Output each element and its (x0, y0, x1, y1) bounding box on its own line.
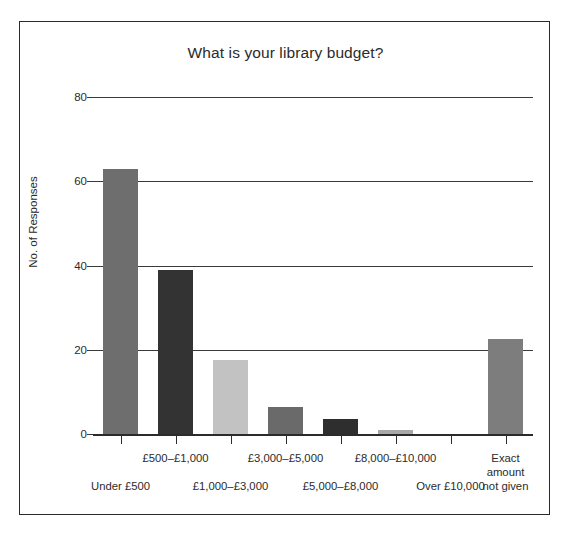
y-tick-label: 20 (53, 344, 87, 356)
chart-figure: What is your library budget? No. of Resp… (0, 0, 571, 541)
bar (488, 339, 522, 434)
x-tick-mark (506, 435, 507, 444)
x-tick-label: £3,000–£5,000 (248, 451, 323, 465)
y-tick-mark (87, 97, 93, 98)
x-tick-label: Under £500 (91, 479, 150, 493)
x-tick-label: £1,000–£3,000 (193, 479, 268, 493)
y-tick-label: 60 (53, 175, 87, 187)
x-tick-mark (451, 435, 452, 444)
y-axis-title: No. of Responses (27, 72, 39, 372)
x-tick-label: £8,000–£10,000 (355, 451, 437, 465)
y-tick-mark (87, 350, 93, 351)
y-tick-label: 80 (53, 91, 87, 103)
gridline (93, 97, 533, 98)
plot-area (93, 97, 533, 434)
bar (213, 360, 247, 434)
x-tick-mark (176, 435, 177, 444)
y-tick-mark (87, 266, 93, 267)
chart-title: What is your library budget? (0, 44, 571, 62)
gridline (93, 181, 533, 182)
x-axis-line (93, 434, 533, 436)
gridline (93, 266, 533, 267)
x-tick-mark (396, 435, 397, 444)
y-tick-label: 40 (53, 260, 87, 272)
x-tick-label: Exact amount not given (473, 451, 539, 493)
x-tick-label: £5,000–£8,000 (303, 479, 378, 493)
x-tick-mark (121, 435, 122, 444)
bar (103, 169, 137, 434)
x-tick-mark (286, 435, 287, 444)
y-tick-mark (87, 181, 93, 182)
x-tick-mark (341, 435, 342, 444)
bar (323, 419, 357, 434)
bar (158, 270, 192, 434)
y-tick-label: 0 (53, 428, 87, 440)
x-tick-label: £500–£1,000 (143, 451, 209, 465)
bar (268, 407, 302, 434)
x-tick-mark (231, 435, 232, 444)
y-axis-tick-labels: 020406080 (45, 97, 87, 434)
